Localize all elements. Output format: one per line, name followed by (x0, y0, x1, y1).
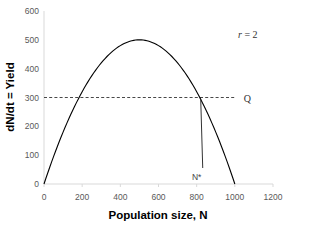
x-tick-label: 800 (190, 192, 204, 202)
x-tick-label: 1200 (264, 192, 283, 202)
y-tick-label: 0 (34, 179, 39, 189)
r-annotation: r = 2 (238, 29, 258, 40)
x-axis: 020040060080010001200 (42, 184, 283, 202)
x-tick-label: 600 (151, 192, 165, 202)
x-tick-labels: 020040060080010001200 (42, 184, 283, 202)
x-tick-label: 0 (42, 192, 47, 202)
x-tick-label: 200 (75, 192, 89, 202)
x-tick-label: 1000 (225, 192, 244, 202)
y-tick-label: 100 (25, 150, 39, 160)
y-tick-label: 500 (25, 35, 39, 45)
n-star-pointer (201, 100, 203, 169)
x-tick-label: 400 (113, 192, 127, 202)
y-tick-label: 600 (25, 6, 39, 16)
y-tick-label: 300 (25, 93, 39, 103)
y-axis: 0100200300400500600 (25, 6, 44, 189)
n-star-label: N* (192, 172, 202, 182)
y-axis-title: dN/dt = Yield (4, 62, 16, 131)
yield-chart: 0100200300400500600 02004006008001000120… (0, 0, 313, 229)
y-tick-label: 200 (25, 121, 39, 131)
yield-curve (44, 40, 235, 184)
x-axis-title: Population size, N (108, 209, 207, 221)
quota-label: Q (244, 93, 252, 104)
y-tick-label: 400 (25, 64, 39, 74)
y-tick-labels: 0100200300400500600 (25, 6, 39, 189)
